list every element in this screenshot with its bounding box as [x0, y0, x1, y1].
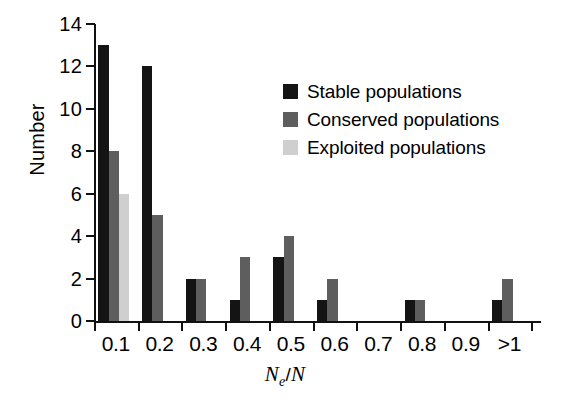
x-axis-line — [94, 321, 541, 323]
y-axis-tick-label: 0 — [40, 311, 82, 331]
x-axis-tick — [138, 323, 140, 331]
y-axis-tick-label: 4 — [40, 226, 82, 246]
y-axis-tick-label: 8 — [40, 141, 82, 161]
bar — [317, 300, 327, 321]
bar — [240, 257, 250, 321]
bar — [196, 279, 206, 321]
x-axis-title-symbol: N — [265, 362, 279, 386]
x-axis-tick — [488, 323, 490, 331]
x-axis-tick — [181, 323, 183, 331]
legend-item: Stable populations — [283, 78, 553, 104]
bar — [502, 279, 512, 321]
y-axis-tick — [86, 150, 95, 152]
legend-swatch-icon — [283, 112, 298, 127]
plot-area — [96, 24, 541, 321]
bar — [405, 300, 415, 321]
x-axis-tick — [94, 323, 96, 331]
y-axis-tick-label: 12 — [40, 56, 82, 76]
x-axis-title: Ne/N — [0, 362, 570, 390]
x-axis-tick — [531, 323, 533, 331]
legend-swatch-icon — [283, 84, 298, 99]
bar — [142, 66, 152, 321]
legend-swatch-icon — [283, 140, 298, 155]
legend-item: Exploited populations — [283, 134, 553, 160]
legend-label: Exploited populations — [307, 138, 486, 157]
bar — [186, 279, 196, 321]
x-axis-title-denominator: N — [291, 362, 305, 386]
x-axis-tick — [225, 323, 227, 331]
legend-label: Stable populations — [307, 82, 462, 101]
legend-item: Conserved populations — [283, 106, 553, 132]
y-axis-tick — [86, 193, 95, 195]
y-axis-tick — [86, 235, 95, 237]
legend: Stable populationsConserved populationsE… — [283, 78, 553, 162]
bar — [109, 151, 119, 321]
y-axis-tick-labels: 02468101214 — [22, 0, 82, 403]
bar — [273, 257, 283, 321]
bar — [119, 194, 129, 321]
x-axis-tick — [444, 323, 446, 331]
y-axis-tick — [86, 65, 95, 67]
bar — [327, 279, 337, 321]
x-axis-tick-label: >1 — [480, 332, 540, 356]
bar — [284, 236, 294, 321]
bar-chart-figure: Number 02468101214 0.10.20.30.40.50.60.7… — [0, 0, 570, 403]
bar — [492, 300, 502, 321]
bar — [415, 300, 425, 321]
y-axis-tick-label: 14 — [40, 14, 82, 34]
bar — [98, 45, 108, 321]
bar — [152, 215, 162, 321]
x-axis-tick — [313, 323, 315, 331]
y-axis-tick-label: 2 — [40, 269, 82, 289]
x-axis-tick — [269, 323, 271, 331]
y-axis-tick — [86, 278, 95, 280]
legend-label: Conserved populations — [307, 110, 499, 129]
x-axis-tick — [400, 323, 402, 331]
bar — [230, 300, 240, 321]
y-axis-tick-label: 10 — [40, 99, 82, 119]
y-axis-tick-label: 6 — [40, 184, 82, 204]
y-axis-tick — [86, 108, 95, 110]
y-axis-tick — [86, 23, 95, 25]
x-axis-tick — [356, 323, 358, 331]
